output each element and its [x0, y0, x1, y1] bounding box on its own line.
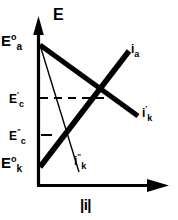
label-Ea-base: E [1, 32, 11, 49]
y-axis-title: E [53, 6, 64, 24]
label-E-anodic-equilibrium: Eoa [1, 33, 22, 49]
label-Ecdoubleprime-subscript: c [21, 136, 26, 146]
label-ikprime-subscript: k [147, 113, 152, 123]
label-Ecdoubleprime-base: E [9, 129, 17, 143]
label-Ecprime-superscript: ' [17, 90, 19, 99]
label-Ek-subscript: k [17, 163, 23, 174]
x-axis-arrow-icon [147, 179, 169, 192]
label-Ecdoubleprime-superscript: " [17, 127, 21, 136]
y-axis-arrow-icon [33, 16, 44, 35]
label-Ecprime-subscript: c [19, 99, 24, 109]
label-ia-subscript: a [134, 49, 139, 59]
label-E-corrosion-double-prime: E"c [9, 127, 26, 143]
label-ikprime-superscript: ' [145, 104, 147, 113]
evans-diagram-figure: E |i| Eoa E'c E"c Eok ia i'k i"k [0, 0, 178, 220]
label-E-cathodic-equilibrium: Eok [1, 155, 22, 171]
label-Ek-superscript: o [11, 154, 17, 164]
label-ikdoubleprime-subscript: k [81, 161, 86, 171]
label-Ea-subscript: a [17, 41, 23, 52]
label-Ecprime-base: E [9, 92, 17, 106]
label-ikdoubleprime-superscript: " [77, 152, 81, 161]
curve-ia [40, 51, 129, 167]
x-axis-title: |i| [80, 196, 91, 213]
label-E-corrosion-prime: E'c [9, 90, 24, 106]
label-Ea-superscript: o [11, 32, 17, 42]
label-curve-ik-double-prime: i"k [74, 152, 86, 168]
label-curve-ia: ia [131, 40, 139, 56]
label-Ek-base: E [1, 154, 11, 171]
label-curve-ik-prime: i'k [142, 104, 152, 120]
